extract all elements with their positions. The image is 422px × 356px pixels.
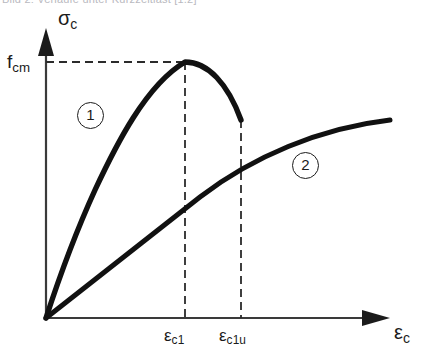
x-axis-label-symbol: ε: [394, 321, 403, 343]
y-axis: [38, 28, 54, 318]
x-tick-label-epsc1: εc1: [164, 327, 184, 347]
x-axis-label: εc: [394, 322, 410, 345]
plot-canvas: [0, 0, 422, 356]
x-tick-2-symbol: ε: [219, 326, 227, 345]
curve-2-tag: 2: [292, 152, 319, 179]
y-tick-subscript: cm: [12, 60, 30, 75]
y-axis-label-subscript: c: [70, 16, 77, 32]
x-tick-2-subscript: c1u: [227, 333, 246, 347]
curve-1-tag: 1: [77, 102, 104, 129]
stress-strain-figure: Bild 2: Verläufe unter Kurzzeitlast [1.2…: [0, 0, 422, 356]
x-tick-1-symbol: ε: [164, 326, 172, 345]
x-axis: [46, 310, 390, 326]
curve-2-path: [46, 120, 390, 318]
y-tick-label-fcm: fcm: [7, 52, 30, 74]
x-tick-label-epsc1u: εc1u: [219, 327, 246, 347]
x-tick-1-subscript: c1: [172, 333, 185, 347]
x-axis-label-subscript: c: [403, 330, 410, 346]
y-axis-label: σc: [58, 8, 77, 31]
y-axis-label-symbol: σ: [58, 7, 70, 29]
